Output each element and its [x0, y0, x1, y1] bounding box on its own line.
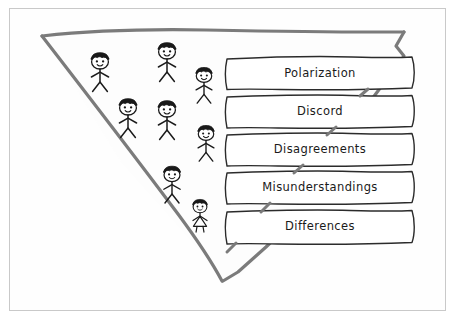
label-box-outline-4	[226, 171, 415, 204]
label-box-group	[226, 57, 415, 245]
label-box-outline-3	[226, 133, 415, 166]
label-box-outline-1	[226, 57, 415, 90]
diagram-artwork	[0, 0, 457, 322]
diagram-canvas: Polarization Discord Disagreements Misun…	[0, 0, 457, 322]
label-box-outline-5	[226, 210, 415, 244]
label-box-disagreements[interactable]	[226, 133, 415, 166]
label-box-discord[interactable]	[226, 95, 415, 128]
label-box-differences[interactable]	[226, 210, 415, 244]
label-box-misunderstandings[interactable]	[226, 171, 415, 204]
label-box-outline-2	[226, 95, 415, 128]
label-box-polarization[interactable]	[226, 57, 415, 90]
